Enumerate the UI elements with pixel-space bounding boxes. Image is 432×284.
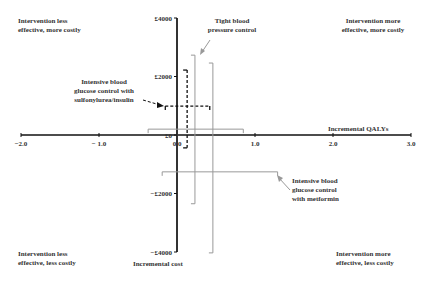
label-tight-bp-line2: pressure control [208, 26, 256, 34]
y-tick-label: £4000 [155, 15, 173, 23]
label-sulfonylurea-line2: glucose control with [74, 87, 134, 95]
confidence-intervals [148, 55, 277, 253]
y-tick-label: −£2000 [151, 190, 173, 198]
label-metformin-line2: glucose control [292, 186, 337, 194]
label-sulfonylurea-line3: sulfonylurea/insulin [74, 96, 134, 104]
label-sulfonylurea-line1: Intensive blood [81, 78, 127, 86]
x-tick-label: 2.0 [329, 140, 338, 148]
quadrant-bottom-left-line2: effective, less costly [18, 259, 76, 267]
x-tick-label: 1.0 [251, 140, 260, 148]
label-metformin-line1: Intensive blood [292, 177, 338, 185]
arrow-metformin [277, 175, 290, 190]
x-tick-label: − 1.0 [92, 140, 107, 148]
quadrant-top-right-line2: effective, more costly [342, 26, 405, 34]
label-metformin-line3: with metformin [292, 195, 339, 203]
y-tick-label: £0 [165, 132, 173, 140]
x-tick-label: 3.0 [407, 140, 416, 148]
axes: −2.0− 1.00.01.02.03.0£4000£2000£0−£2000−… [15, 15, 416, 257]
arrow-sulfonylurea [143, 100, 164, 108]
quadrant-top-left-line1: Intervention less [18, 17, 68, 25]
x-axis-title: Incremental QALYs [328, 125, 389, 133]
arrow-tight-bp [200, 40, 210, 55]
y-axis-title: Incremental cost [133, 260, 183, 268]
x-tick-label: −2.0 [15, 140, 28, 148]
quadrant-bottom-right-line2: effective, less costly [336, 259, 394, 267]
ci-metformin [162, 63, 277, 253]
label-tight-bp-line1: Tight blood [215, 17, 250, 25]
quadrant-top-left-line2: effective, more costly [18, 26, 81, 34]
quadrant-top-right-line1: Intervention more [346, 17, 401, 25]
cost-effectiveness-plane: −2.0− 1.00.01.02.03.0£4000£2000£0−£2000−… [0, 0, 432, 284]
y-tick-label: −£4000 [151, 249, 173, 257]
y-tick-label: £2000 [155, 73, 173, 81]
quadrant-bottom-right-line1: Intervention more [336, 250, 391, 258]
annotations: Incremental QALYs Incremental cost Tight… [18, 17, 405, 268]
quadrant-bottom-left-line1: Intervention less [18, 250, 68, 258]
